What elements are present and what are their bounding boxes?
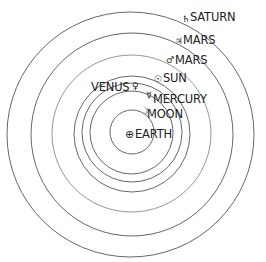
mercury-symbol-icon: ☿ bbox=[146, 91, 152, 100]
label-sun: SUN bbox=[163, 72, 187, 84]
label-saturn: SATURN bbox=[190, 11, 235, 23]
label-moon: MOON bbox=[147, 108, 183, 120]
label-venus: VENUS bbox=[91, 81, 129, 93]
label-mars: MARS bbox=[175, 54, 207, 66]
venus-symbol-icon: ♀ bbox=[132, 82, 139, 91]
label-jupiter: MARS bbox=[183, 34, 215, 46]
earth-symbol-icon: ⊕ bbox=[125, 129, 134, 140]
mars-symbol-icon: ♂ bbox=[166, 56, 174, 65]
saturn-symbol-icon: ♄ bbox=[182, 15, 190, 24]
geocentric-diagram: ♄ SATURN ♃ MARS ♂ MARS ☉ SUN VENUS ♀ ☿ M… bbox=[0, 0, 266, 262]
label-mercury: MERCURY bbox=[153, 93, 207, 105]
label-earth: EARTH bbox=[135, 128, 172, 140]
sun-symbol-icon: ☉ bbox=[154, 75, 162, 84]
jupiter-symbol-icon: ♃ bbox=[175, 37, 183, 46]
